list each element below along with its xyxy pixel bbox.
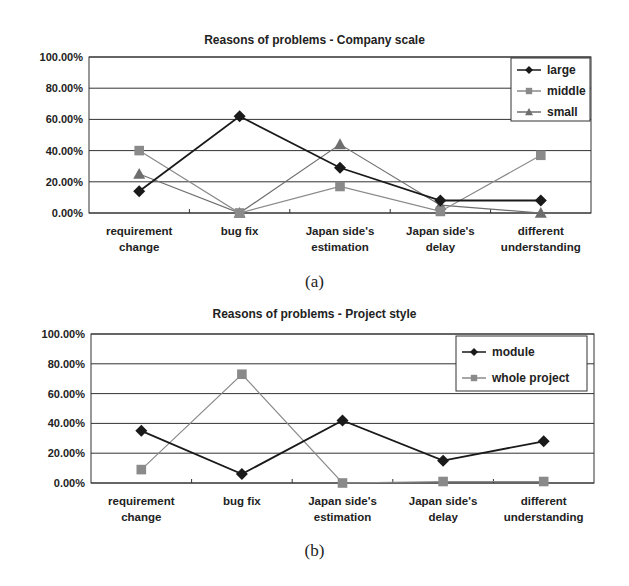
diamond-marker-icon <box>337 414 349 426</box>
y-tick-label: 100.00% <box>42 328 86 340</box>
diamond-marker-icon <box>538 435 550 447</box>
y-tick-label: 20.00% <box>48 447 86 459</box>
square-marker-icon <box>338 478 348 488</box>
x-category-label: change <box>121 511 161 523</box>
diamond-marker-icon <box>437 455 449 467</box>
legend-label: module <box>492 345 535 359</box>
y-tick-label: 40.00% <box>48 417 86 429</box>
x-category-label: Japan side's <box>308 495 377 507</box>
square-marker-icon <box>137 465 147 475</box>
square-marker-icon <box>237 369 247 379</box>
x-category-label: bug fix <box>223 495 261 507</box>
y-tick-label: 0.00% <box>54 477 85 489</box>
x-category-label: understanding <box>504 511 584 523</box>
x-category-label: requirement <box>108 495 175 507</box>
chart-b-plot: 0.00%20.00%40.00%60.00%80.00%100.00%requ… <box>0 0 629 586</box>
series-line-module <box>141 420 543 474</box>
legend: modulewhole project <box>456 336 587 391</box>
y-tick-label: 80.00% <box>48 358 86 370</box>
y-tick-label: 60.00% <box>48 388 86 400</box>
diamond-marker-icon <box>236 468 248 480</box>
x-category-label: delay <box>428 511 458 523</box>
x-category-label: Japan side's <box>409 495 478 507</box>
legend-label: whole project <box>491 371 569 385</box>
x-category-label: estimation <box>314 511 372 523</box>
x-category-label: different <box>521 495 567 507</box>
square-marker-icon <box>438 477 448 487</box>
square-marker-icon <box>471 375 477 381</box>
diamond-marker-icon <box>135 425 147 437</box>
chart-b-caption: (b) <box>0 541 629 561</box>
square-marker-icon <box>539 477 549 487</box>
